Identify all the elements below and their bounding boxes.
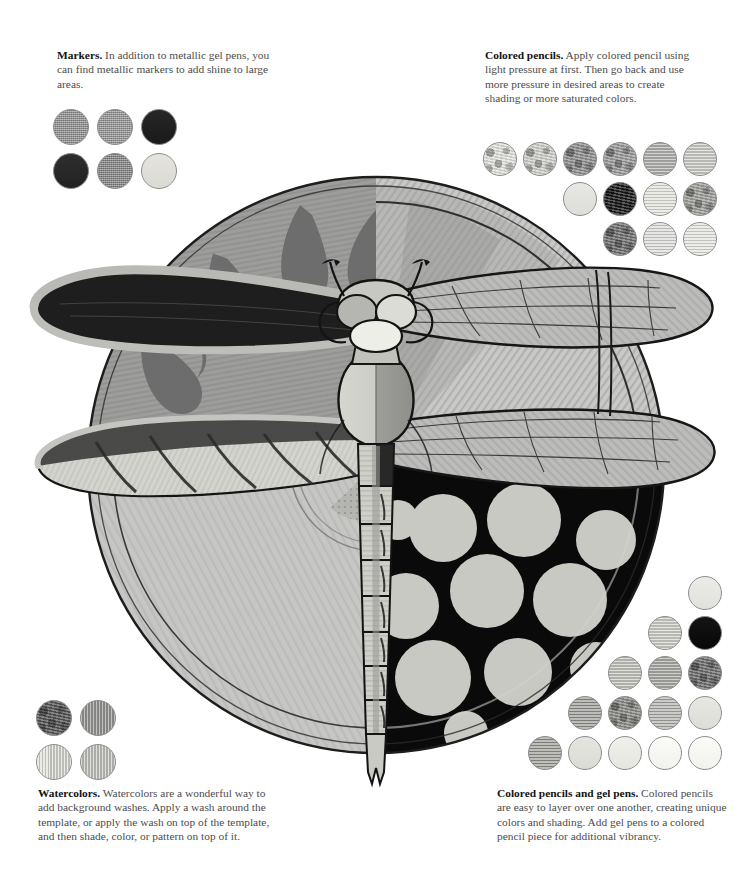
swatch-gel-9 bbox=[648, 696, 682, 730]
swatch-marker-4-texture bbox=[54, 154, 88, 188]
note-watercolors: Watercolors. Watercolors are a wonderful… bbox=[38, 786, 283, 843]
swatch-gel-12 bbox=[568, 736, 602, 770]
swatch-pencil-9-texture bbox=[644, 183, 676, 215]
swatch-group-colored-pencils-and-gel-pens bbox=[528, 576, 722, 776]
swatch-group-markers bbox=[53, 109, 177, 197]
swatch-gel-13 bbox=[608, 736, 642, 770]
swatch-gel-14-texture bbox=[649, 737, 681, 769]
note-colored-pencils: Colored pencils. Apply colored pencil us… bbox=[485, 48, 700, 105]
swatch-marker-6 bbox=[141, 153, 177, 189]
swatch-gel-3-texture bbox=[689, 617, 721, 649]
swatch-gel-8 bbox=[608, 696, 642, 730]
swatch-gel-11 bbox=[528, 736, 562, 770]
swatch-gel-10-texture bbox=[689, 697, 721, 729]
swatch-gel-11-texture bbox=[529, 737, 561, 769]
swatch-gel-6 bbox=[688, 656, 722, 690]
swatch-gel-3 bbox=[688, 616, 722, 650]
coloring-page: Markers. In addition to metallic gel pen… bbox=[0, 0, 752, 894]
swatch-marker-1 bbox=[53, 109, 89, 145]
swatch-gel-13-texture bbox=[609, 737, 641, 769]
swatch-group-watercolors bbox=[36, 700, 116, 788]
note-colored-pencils-heading: Colored pencils. bbox=[485, 49, 563, 61]
swatch-pencil-1-texture bbox=[484, 143, 516, 175]
swatch-marker-6-texture bbox=[142, 154, 176, 188]
swatch-gel-10 bbox=[688, 696, 722, 730]
swatch-gel-2 bbox=[648, 616, 682, 650]
swatch-pencil-11-texture bbox=[604, 223, 636, 255]
swatch-water-2-texture bbox=[81, 701, 115, 735]
swatch-marker-3-texture bbox=[142, 110, 176, 144]
swatch-pencil-3-texture bbox=[564, 143, 596, 175]
swatch-pencil-12 bbox=[643, 222, 677, 256]
swatch-marker-1-texture bbox=[54, 110, 88, 144]
swatch-water-1 bbox=[36, 700, 72, 736]
swatch-pencil-8 bbox=[603, 182, 637, 216]
swatch-pencil-4 bbox=[603, 142, 637, 176]
swatch-pencil-9 bbox=[643, 182, 677, 216]
note-colored-pencils-and-gel-pens: Colored pencils and gel pens. Colored pe… bbox=[497, 786, 729, 843]
swatch-gel-1 bbox=[688, 576, 722, 610]
note-markers-heading: Markers. bbox=[57, 49, 102, 61]
swatch-pencil-7-texture bbox=[564, 183, 596, 215]
swatch-marker-3 bbox=[141, 109, 177, 145]
swatch-pencil-8-texture bbox=[604, 183, 636, 215]
swatch-gel-15 bbox=[688, 736, 722, 770]
swatch-marker-2-texture bbox=[98, 110, 132, 144]
swatch-gel-4 bbox=[608, 656, 642, 690]
swatch-pencil-11 bbox=[603, 222, 637, 256]
swatch-pencil-2 bbox=[523, 142, 557, 176]
swatch-gel-5-texture bbox=[649, 657, 681, 689]
swatch-gel-9-texture bbox=[649, 697, 681, 729]
swatch-marker-5-texture bbox=[98, 154, 132, 188]
swatch-gel-15-texture bbox=[689, 737, 721, 769]
swatch-pencil-6 bbox=[683, 142, 717, 176]
swatch-gel-7-texture bbox=[569, 697, 601, 729]
swatch-marker-2 bbox=[97, 109, 133, 145]
note-colored-pencils-and-gel-pens-heading: Colored pencils and gel pens. bbox=[497, 787, 638, 799]
swatch-gel-12-texture bbox=[569, 737, 601, 769]
swatch-pencil-10-texture bbox=[684, 183, 716, 215]
swatch-pencil-1 bbox=[483, 142, 517, 176]
swatch-pencil-5 bbox=[643, 142, 677, 176]
swatch-pencil-5-texture bbox=[644, 143, 676, 175]
swatch-pencil-7 bbox=[563, 182, 597, 216]
swatch-pencil-10 bbox=[683, 182, 717, 216]
swatch-marker-5 bbox=[97, 153, 133, 189]
swatch-gel-8-texture bbox=[609, 697, 641, 729]
swatch-gel-14 bbox=[648, 736, 682, 770]
swatch-pencil-3 bbox=[563, 142, 597, 176]
swatch-pencil-6-texture bbox=[684, 143, 716, 175]
swatch-water-2 bbox=[80, 700, 116, 736]
swatch-gel-2-texture bbox=[649, 617, 681, 649]
swatch-water-4 bbox=[80, 744, 116, 780]
swatch-water-3-texture bbox=[37, 745, 71, 779]
swatch-gel-4-texture bbox=[609, 657, 641, 689]
swatch-pencil-12-texture bbox=[644, 223, 676, 255]
swatch-water-4-texture bbox=[81, 745, 115, 779]
swatch-pencil-4-texture bbox=[604, 143, 636, 175]
swatch-gel-1-texture bbox=[689, 577, 721, 609]
swatch-pencil-2-texture bbox=[524, 143, 556, 175]
note-markers: Markers. In addition to metallic gel pen… bbox=[57, 48, 272, 91]
note-watercolors-heading: Watercolors. bbox=[38, 787, 100, 799]
swatch-gel-5 bbox=[648, 656, 682, 690]
swatch-pencil-13 bbox=[683, 222, 717, 256]
swatch-water-1-texture bbox=[37, 701, 71, 735]
swatch-group-colored-pencils bbox=[483, 142, 717, 262]
swatch-gel-7 bbox=[568, 696, 602, 730]
swatch-gel-6-texture bbox=[689, 657, 721, 689]
swatch-pencil-13-texture bbox=[684, 223, 716, 255]
swatch-water-3 bbox=[36, 744, 72, 780]
swatch-marker-4 bbox=[53, 153, 89, 189]
